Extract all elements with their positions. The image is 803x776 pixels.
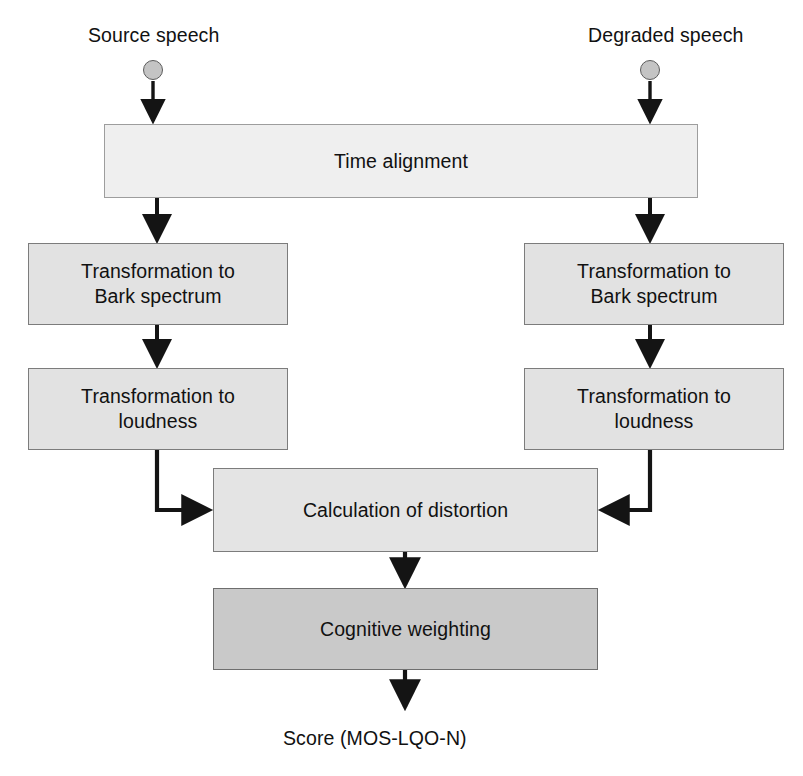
node-bark-spectrum-left[interactable]: Transformation to Bark spectrum	[28, 243, 288, 325]
node-time-alignment[interactable]: Time alignment	[104, 124, 698, 198]
flowchart-canvas: Source speech Degraded speech Time align…	[0, 0, 803, 776]
source-speech-endpoint-icon	[143, 60, 163, 80]
input-label-degraded-speech: Degraded speech	[588, 24, 743, 47]
edge-loudness-left-to-distortion	[157, 450, 209, 510]
node-loudness-left[interactable]: Transformation to loudness	[28, 368, 288, 450]
node-loudness-right[interactable]: Transformation to loudness	[524, 368, 784, 450]
output-label-score: Score (MOS-LQO-N)	[283, 727, 467, 750]
node-calculation-of-distortion[interactable]: Calculation of distortion	[213, 468, 598, 552]
input-label-source-speech: Source speech	[88, 24, 219, 47]
degraded-speech-endpoint-icon	[640, 60, 660, 80]
node-bark-spectrum-right[interactable]: Transformation to Bark spectrum	[524, 243, 784, 325]
node-cognitive-weighting[interactable]: Cognitive weighting	[213, 588, 598, 670]
edge-loudness-right-to-distortion	[602, 450, 650, 510]
